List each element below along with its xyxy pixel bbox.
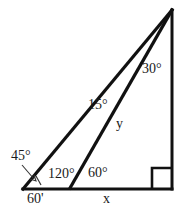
45-degree-leader-line [22, 165, 34, 179]
geometry-diagram: 45° 120° 60° 15° 30° y 60' x [0, 0, 183, 217]
side-label-60ft: 60' [27, 192, 44, 206]
cevian-line [70, 10, 172, 188]
angle-label-30: 30° [142, 62, 162, 76]
angle-label-15: 15° [88, 98, 108, 112]
side-label-y: y [116, 117, 123, 131]
right-angle-square-icon [152, 168, 173, 189]
side-label-x: x [103, 192, 110, 206]
angle-label-60: 60° [88, 166, 108, 180]
left-vertex-angle-tick [36, 176, 41, 185]
angle-label-120: 120° [48, 167, 75, 181]
angle-label-45: 45° [11, 149, 31, 163]
